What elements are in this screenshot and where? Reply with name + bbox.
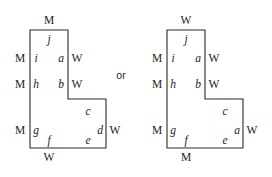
left-polygon-outline xyxy=(30,30,106,148)
right-vertex-label-i: i xyxy=(171,53,174,65)
right-vertex-label-b: b xyxy=(195,79,201,91)
left-top-edge-label: M xyxy=(44,15,54,27)
right-lower-left-edge-label: M xyxy=(152,125,162,137)
left-upper-left-edge-label: M xyxy=(15,53,25,65)
left-vertex-label-g: g xyxy=(33,125,39,137)
left-bottom-edge-label: W xyxy=(44,152,55,164)
left-vertex-label-b: b xyxy=(58,79,64,91)
left-lower-right-edge-label: W xyxy=(110,125,121,137)
right-polygon-outline xyxy=(167,30,243,148)
right-vertex-label-a-top: a xyxy=(195,53,201,65)
right-middle-right-edge-label: W xyxy=(209,79,220,91)
left-vertex-label-i: i xyxy=(34,53,37,65)
diagram-canvas: M M M M W W W W j i a h b c g d e f or W… xyxy=(0,0,272,177)
right-middle-left-edge-label: M xyxy=(152,79,162,91)
left-vertex-label-a: a xyxy=(58,53,64,65)
left-vertex-label-j: j xyxy=(47,34,50,46)
left-lower-left-edge-label: M xyxy=(15,125,25,137)
left-middle-left-edge-label: M xyxy=(15,79,25,91)
right-vertex-label-c: c xyxy=(222,106,227,118)
right-vertex-label-h: h xyxy=(170,79,176,91)
right-lower-right-edge-label: W xyxy=(247,125,258,137)
right-top-edge-label: W xyxy=(181,15,192,27)
right-upper-left-edge-label: M xyxy=(152,53,162,65)
right-vertex-label-a-right: a xyxy=(234,125,240,137)
right-vertex-label-e: e xyxy=(222,135,227,147)
right-vertex-label-j: j xyxy=(184,34,187,46)
right-vertex-label-g: g xyxy=(170,125,176,137)
right-bottom-edge-label: M xyxy=(181,152,191,164)
conjunction-or-label: or xyxy=(116,69,125,81)
right-vertex-label-f: f xyxy=(184,135,187,147)
left-vertex-label-f: f xyxy=(47,135,50,147)
left-vertex-label-e: e xyxy=(85,135,90,147)
left-middle-right-edge-label: W xyxy=(72,79,83,91)
left-vertex-label-c: c xyxy=(85,106,90,118)
left-vertex-label-h: h xyxy=(33,79,39,91)
right-upper-right-edge-label: W xyxy=(209,53,220,65)
left-vertex-label-d: d xyxy=(97,125,103,137)
polygon-outlines xyxy=(0,0,272,177)
left-upper-right-edge-label: W xyxy=(72,53,83,65)
